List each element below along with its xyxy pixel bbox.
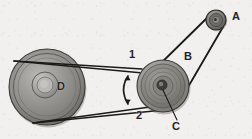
- rotation-arrow: [124, 76, 131, 104]
- label-pulley-c: C: [172, 121, 180, 132]
- label-belt-b: B: [184, 51, 192, 62]
- belt-drive-diagram: A B C D 1 2: [0, 0, 252, 139]
- label-pulley-a: A: [232, 11, 240, 22]
- label-belt-2: 2: [136, 110, 142, 121]
- small-pulley-a: [206, 10, 227, 31]
- label-belt-1: 1: [129, 49, 135, 60]
- label-pulley-d: D: [57, 81, 65, 92]
- diagram-canvas: [0, 0, 252, 139]
- stepped-pulley-c: [137, 60, 191, 115]
